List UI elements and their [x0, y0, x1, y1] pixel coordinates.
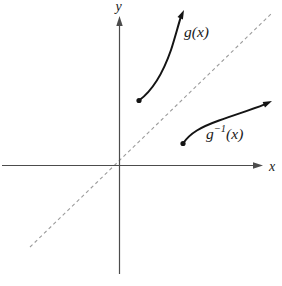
g-inverse-curve-label: g−1(x)	[206, 123, 243, 143]
x-axis-label: x	[268, 159, 276, 174]
y-axis-arrowhead-icon	[116, 16, 122, 26]
g-curve-start-point	[136, 98, 141, 103]
g-curve	[139, 18, 180, 100]
g-curve-arrowhead-icon	[178, 10, 185, 20]
g-inverse-curve-start-point	[180, 141, 185, 146]
g-inverse-label-superscript: −1	[214, 123, 226, 134]
g-inverse-curve-arrowhead-icon	[263, 101, 272, 107]
inverse-function-figure: y x g(x) g−1(x)	[0, 0, 282, 286]
x-axis-arrowhead-icon	[253, 162, 263, 168]
graph-canvas: y x g(x) g−1(x)	[0, 0, 282, 286]
g-curve-label: g(x)	[184, 23, 209, 41]
y-axis-label: y	[113, 0, 122, 14]
g-inverse-label-argument: (x)	[226, 125, 243, 143]
